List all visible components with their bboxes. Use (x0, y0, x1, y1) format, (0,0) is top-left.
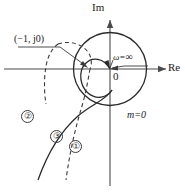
curve-label-1: ① (69, 140, 82, 153)
curve-label-2: ② (21, 110, 34, 123)
locus-direction-arrow (104, 60, 110, 69)
imaginary-axis (107, 20, 113, 186)
plot-canvas (0, 0, 185, 195)
infinity-symbol: ∞ (125, 51, 132, 62)
omega-infinity-label: ω=∞ (113, 52, 133, 62)
curve-label-3: ③ (50, 130, 63, 143)
imaginary-axis-label: Im (92, 2, 104, 13)
critical-point-label: (−1, j0) (14, 34, 44, 44)
real-axis-label: Re (168, 62, 180, 73)
origin-label: 0 (113, 71, 119, 82)
critical-point-leader (18, 47, 88, 68)
m-zero-label: m=0 (127, 110, 146, 120)
omega-infinity-text: ω= (113, 52, 125, 62)
curve-2-upper-branch (45, 44, 59, 104)
nyquist-plot-figure: Im Re 0 (−1, j0) ω=∞ m=0 ② ③ ① (0, 0, 185, 195)
real-axis (4, 66, 166, 72)
curve-2-path (58, 42, 91, 69)
